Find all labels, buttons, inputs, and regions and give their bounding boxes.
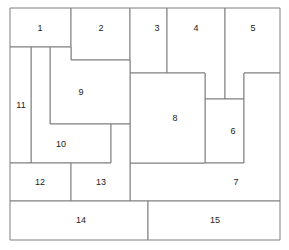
region-label-2: 2 <box>98 23 103 33</box>
region-label-11: 11 <box>16 100 25 110</box>
region-label-10: 10 <box>56 139 66 149</box>
region-label-1: 1 <box>37 23 42 33</box>
region-label-14: 14 <box>76 215 86 225</box>
region-label-4: 4 <box>193 23 198 33</box>
region-label-5: 5 <box>250 23 255 33</box>
regions-group <box>10 8 280 240</box>
region-label-3: 3 <box>154 23 159 33</box>
region-3 <box>130 8 167 73</box>
region-label-13: 13 <box>96 177 106 187</box>
region-label-6: 6 <box>230 126 235 136</box>
region-8 <box>130 73 205 163</box>
region-2 <box>71 8 130 60</box>
region-label-8: 8 <box>172 113 177 123</box>
region-label-9: 9 <box>78 87 83 97</box>
region-label-12: 12 <box>35 177 45 187</box>
rectangle-partition-diagram: 123456789101112131415 <box>0 0 289 250</box>
region-label-15: 15 <box>210 215 220 225</box>
region-label-7: 7 <box>233 177 238 187</box>
region-6 <box>205 99 244 163</box>
